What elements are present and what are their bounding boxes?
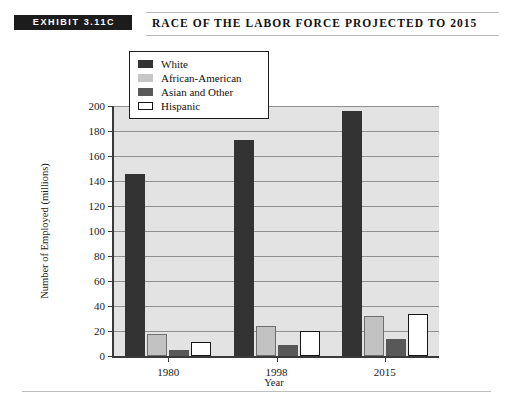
legend-item-label: Asian and Other xyxy=(161,86,233,98)
y-axis-label: 140 xyxy=(89,175,106,187)
x-axis-label: 2015 xyxy=(374,366,396,378)
y-axis-label: 20 xyxy=(94,325,105,337)
legend-item: Asian and Other xyxy=(138,85,261,99)
bar-1980-african-american xyxy=(147,334,167,357)
chart-legend: WhiteAfrican-AmericanAsian and OtherHisp… xyxy=(129,51,269,119)
legend-item-label: Hispanic xyxy=(161,100,200,112)
title-rule-top xyxy=(146,12,499,13)
y-axis-label: 0 xyxy=(100,350,106,362)
bar-1980-hispanic xyxy=(191,342,211,356)
legend-item-label: White xyxy=(161,58,188,70)
y-axis-label: 180 xyxy=(89,125,106,137)
y-axis-tick xyxy=(108,231,114,232)
bar-1998-asian-and-other xyxy=(278,345,298,356)
y-gridline xyxy=(114,281,439,282)
legend-item: Hispanic xyxy=(138,99,261,113)
legend-item-label: African-American xyxy=(161,72,242,84)
bar-1980-white xyxy=(125,174,145,357)
bar-2015-african-american xyxy=(364,316,384,356)
y-gridline xyxy=(114,156,439,157)
y-axis-tick xyxy=(108,256,114,257)
y-axis-tick xyxy=(108,131,114,132)
y-axis-tick xyxy=(108,306,114,307)
bar-2015-hispanic xyxy=(408,314,428,357)
legend-swatch-icon xyxy=(138,102,153,110)
chart-figure: Number of Employed (millions) 0204060801… xyxy=(0,42,513,367)
legend-swatch-icon xyxy=(138,74,153,82)
y-axis-tick xyxy=(108,106,114,107)
y-gridline xyxy=(114,306,439,307)
y-gridline xyxy=(114,231,439,232)
legend-swatch-icon xyxy=(138,60,153,68)
bar-1980-asian-and-other xyxy=(169,350,189,356)
y-gridline xyxy=(114,331,439,332)
title-rule-bottom xyxy=(146,35,499,36)
y-gridline xyxy=(114,256,439,257)
x-axis-tick xyxy=(385,356,386,362)
y-axis-tick xyxy=(108,356,114,357)
y-axis-label: 60 xyxy=(94,275,105,287)
y-axis-tick xyxy=(108,281,114,282)
plot-area: 020406080100120140160180200198019982015 xyxy=(112,106,439,358)
y-gridline xyxy=(114,131,439,132)
y-axis-label: 120 xyxy=(89,200,106,212)
exhibit-title: Race of the Labor Force Projected to 201… xyxy=(152,17,502,29)
y-axis-tick xyxy=(108,331,114,332)
x-axis-tick xyxy=(277,356,278,362)
bar-2015-asian-and-other xyxy=(386,339,406,357)
legend-swatch-icon xyxy=(138,88,153,96)
y-axis-tick xyxy=(108,181,114,182)
y-axis-label: 40 xyxy=(94,300,105,312)
x-axis-label: 1980 xyxy=(157,366,179,378)
y-axis-label: 200 xyxy=(89,100,106,112)
y-axis-label: 160 xyxy=(89,150,106,162)
bar-1998-white xyxy=(234,140,254,356)
x-axis-tick xyxy=(168,356,169,362)
footer-rule xyxy=(22,391,491,392)
bar-1998-african-american xyxy=(256,326,276,356)
y-axis-tick xyxy=(108,206,114,207)
x-axis-title: Year xyxy=(264,377,283,388)
bar-2015-white xyxy=(342,111,362,356)
bar-1998-hispanic xyxy=(300,331,320,356)
y-axis-label: 80 xyxy=(94,250,105,262)
legend-item: African-American xyxy=(138,71,261,85)
y-axis-title: Number of Employed (millions) xyxy=(39,163,50,299)
y-gridline xyxy=(114,181,439,182)
y-gridline xyxy=(114,206,439,207)
exhibit-header: EXHIBIT 3.11C Race of the Labor Force Pr… xyxy=(0,0,513,42)
legend-item: White xyxy=(138,57,261,71)
y-axis-label: 100 xyxy=(89,225,106,237)
y-axis-tick xyxy=(108,156,114,157)
exhibit-number-badge: EXHIBIT 3.11C xyxy=(14,15,132,30)
